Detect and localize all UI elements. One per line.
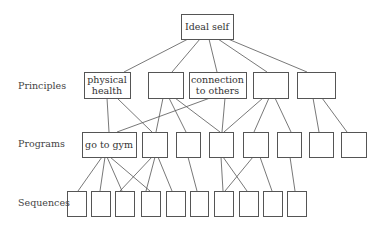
sequence-node-4 [142, 192, 161, 217]
level-label-layer: PrinciplesProgramsSequences [18, 80, 70, 208]
sequence-node-2 [92, 192, 111, 217]
program-node-8-box [342, 133, 367, 158]
edge-principles-4-to-programs-7 [322, 98, 347, 132]
edge-programs-0-to-sequences-0 [78, 157, 102, 191]
principle-node-4-box [254, 73, 289, 99]
program-node-2 [143, 133, 168, 158]
edge-programs-0-to-sequences-1 [100, 157, 105, 191]
program-node-4 [210, 133, 234, 158]
edge-root-to-principles-3 [218, 39, 267, 72]
program-node-7 [310, 133, 334, 158]
sequence-node-9 [264, 192, 283, 217]
program-node-6-box [278, 133, 302, 158]
sequence-node-3 [116, 192, 135, 217]
sequence-node-6-box [191, 192, 209, 217]
principle-node-3-label: to others [196, 85, 239, 96]
edge-programs-3-to-sequences-7 [223, 157, 247, 191]
sequence-node-5 [167, 192, 186, 217]
hierarchy-diagram: Ideal selfphysicalhealthconnectionto oth… [0, 0, 384, 229]
node-ideal-self-label: Ideal self [185, 21, 231, 32]
node-layer: Ideal selfphysicalhealthconnectionto oth… [68, 15, 367, 217]
edge-programs-0-to-sequences-3 [110, 157, 150, 191]
sequence-node-6 [191, 192, 209, 217]
program-node-1: go to gym [83, 133, 137, 158]
principle-node-3: connectionto others [190, 73, 247, 99]
edge-principles-3-to-programs-3 [224, 98, 263, 132]
principle-node-1: physicalhealth [85, 73, 131, 99]
program-node-5 [244, 133, 269, 158]
program-node-8 [342, 133, 367, 158]
sequence-node-1 [68, 192, 87, 217]
program-node-7-box [310, 133, 334, 158]
sequence-node-4-box [142, 192, 161, 217]
edge-principles-4-to-programs-6 [313, 98, 319, 132]
sequence-node-5-box [167, 192, 186, 217]
edge-programs-2-to-sequences-5 [188, 157, 197, 191]
principle-node-4 [254, 73, 289, 99]
principle-node-2-box [149, 73, 184, 99]
edge-root-to-principles-0 [124, 39, 188, 72]
principle-node-2 [149, 73, 184, 99]
edge-principles-1-to-programs-3 [175, 98, 220, 132]
edge-principles-1-to-programs-2 [169, 98, 186, 132]
edge-principles-2-to-programs-3 [222, 98, 225, 132]
principle-node-1-label: health [92, 85, 122, 96]
sequence-node-7 [215, 192, 234, 217]
program-node-4-box [210, 133, 234, 158]
edge-principles-2-to-programs-0 [117, 98, 210, 132]
edge-root-to-principles-2 [209, 39, 217, 72]
program-node-6 [278, 133, 302, 158]
program-node-1-label: go to gym [85, 139, 133, 150]
edge-layer [78, 39, 347, 191]
sequence-node-2-box [92, 192, 111, 217]
edge-programs-5-to-sequences-9 [290, 157, 295, 191]
level-label-principles: Principles [18, 80, 66, 91]
edge-principles-3-to-programs-4 [254, 98, 269, 132]
edge-root-to-principles-4 [228, 39, 307, 72]
edge-programs-0-to-sequences-2 [107, 157, 122, 191]
principle-node-3-label: connection [191, 74, 244, 85]
edge-programs-4-to-sequences-6 [225, 157, 253, 191]
sequence-node-8 [240, 192, 259, 217]
sequence-node-1-box [68, 192, 87, 217]
sequence-node-10-box [288, 192, 307, 217]
node-ideal-self: Ideal self [182, 15, 234, 40]
program-node-3-box [177, 133, 201, 158]
edge-root-to-principles-1 [172, 39, 200, 72]
level-label-programs: Programs [18, 138, 65, 149]
edge-programs-3-to-sequences-6 [221, 157, 223, 191]
edge-principles-3-to-programs-5 [275, 98, 291, 132]
principle-node-5-box [298, 73, 336, 99]
edge-principles-1-to-programs-1 [156, 98, 163, 132]
sequence-node-3-box [116, 192, 135, 217]
program-node-3 [177, 133, 201, 158]
edge-programs-4-to-sequences-8 [260, 157, 272, 191]
sequence-node-9-box [264, 192, 283, 217]
edge-programs-1-to-sequences-4 [158, 157, 172, 191]
sequence-node-8-box [240, 192, 259, 217]
edge-principles-0-to-programs-1 [117, 98, 152, 132]
level-label-sequences: Sequences [18, 197, 70, 208]
edge-principles-0-to-programs-0 [107, 98, 109, 132]
program-node-5-box [244, 133, 269, 158]
sequence-node-7-box [215, 192, 234, 217]
principle-node-1-label: physical [87, 74, 127, 85]
principle-node-5 [298, 73, 336, 99]
sequence-node-10 [288, 192, 307, 217]
program-node-2-box [143, 133, 168, 158]
